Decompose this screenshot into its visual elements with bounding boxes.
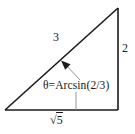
triangle-drawing	[0, 0, 135, 134]
opposite-side-label: 2	[122, 42, 128, 54]
triangle-figure: 3 2 √5 θ=Arcsin(2/3)	[0, 0, 135, 134]
adjacent-side-label: √5	[50, 114, 63, 126]
radical-expression: √5	[50, 114, 63, 126]
hypotenuse-line	[5, 8, 118, 110]
radicand-value: 5	[56, 112, 63, 127]
hypotenuse-label: 3	[53, 31, 59, 43]
angle-expression-label: θ=Arcsin(2/3)	[43, 80, 109, 92]
